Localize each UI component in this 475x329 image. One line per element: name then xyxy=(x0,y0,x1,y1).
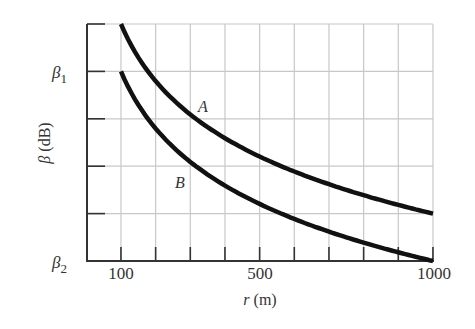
sound-level-chart: β1 β2 100 500 1000 r (m) β (dB) A B xyxy=(0,0,475,329)
y-label-beta1: β1 xyxy=(51,63,67,86)
x-label-1000: 1000 xyxy=(417,264,451,283)
x-label-500: 500 xyxy=(247,264,273,283)
x-axis-title: r (m) xyxy=(243,291,276,309)
x-label-100: 100 xyxy=(108,264,134,283)
y-axis-title: β (dB) xyxy=(36,122,54,164)
curve-label-b: B xyxy=(175,174,185,191)
y-label-beta2: β2 xyxy=(51,253,67,276)
curves xyxy=(121,24,433,261)
curve-label-a: A xyxy=(197,98,208,115)
